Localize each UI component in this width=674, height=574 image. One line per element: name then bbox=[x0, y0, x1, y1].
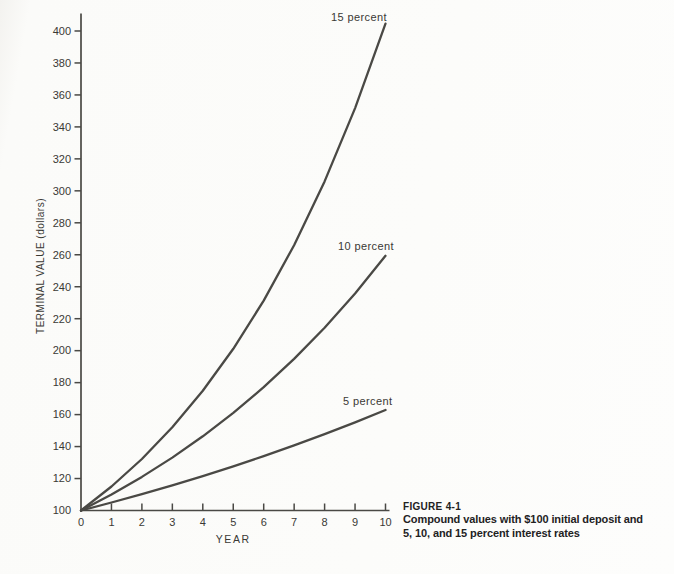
y-axis-title: TERMINAL VALUE (dollars) bbox=[35, 198, 46, 334]
curve-5-percent bbox=[81, 410, 386, 511]
caption-line-1: Compound values with $100 initial deposi… bbox=[403, 513, 671, 527]
caption-line-2: 5, 10, and 15 percent interest rates bbox=[403, 527, 671, 541]
x-tick-label: 9 bbox=[352, 516, 358, 528]
figure-caption: FIGURE 4-1 Compound values with $100 ini… bbox=[403, 500, 671, 540]
x-tick-label: 0 bbox=[78, 516, 84, 528]
x-tick-label: 2 bbox=[139, 516, 145, 528]
y-tick-label: 200 bbox=[53, 344, 71, 356]
y-tick-label: 400 bbox=[53, 25, 71, 37]
x-tick-label: 5 bbox=[230, 516, 236, 528]
curve-label-15-percent: 15 percent bbox=[331, 11, 387, 23]
curve-label-10-percent: 10 percent bbox=[338, 240, 394, 252]
x-axis-title: YEAR bbox=[216, 533, 251, 545]
curve-15-percent bbox=[81, 24, 386, 511]
y-tick-label: 120 bbox=[53, 472, 71, 484]
y-tick-label: 140 bbox=[53, 440, 71, 452]
y-tick-label: 280 bbox=[53, 217, 71, 229]
curve-label-5-percent: 5 percent bbox=[343, 395, 392, 407]
x-tick-label: 6 bbox=[261, 516, 267, 528]
x-tick-label: 1 bbox=[108, 516, 114, 528]
y-tick-label: 180 bbox=[53, 376, 71, 388]
y-tick-label: 360 bbox=[53, 89, 71, 101]
y-tick-label: 160 bbox=[53, 408, 71, 420]
y-tick-label: 300 bbox=[53, 185, 71, 197]
x-tick-label: 7 bbox=[291, 516, 297, 528]
x-tick-label: 10 bbox=[379, 516, 391, 528]
y-tick-label: 220 bbox=[53, 313, 71, 325]
y-tick-label: 380 bbox=[53, 57, 71, 69]
scanned-textbook-page: 1001201401601802002202402602803003203403… bbox=[0, 0, 674, 574]
y-tick-label: 100 bbox=[53, 504, 71, 516]
figure-number: FIGURE 4-1 bbox=[403, 500, 671, 513]
x-tick-label: 4 bbox=[200, 516, 206, 528]
y-tick-label: 340 bbox=[53, 121, 71, 133]
y-tick-label: 260 bbox=[53, 249, 71, 261]
y-tick-label: 320 bbox=[53, 153, 71, 165]
x-tick-label: 8 bbox=[322, 516, 328, 528]
compound-interest-chart: 1001201401601802002202402602803003203403… bbox=[0, 0, 674, 574]
x-tick-label: 3 bbox=[169, 516, 175, 528]
y-tick-label: 240 bbox=[53, 281, 71, 293]
